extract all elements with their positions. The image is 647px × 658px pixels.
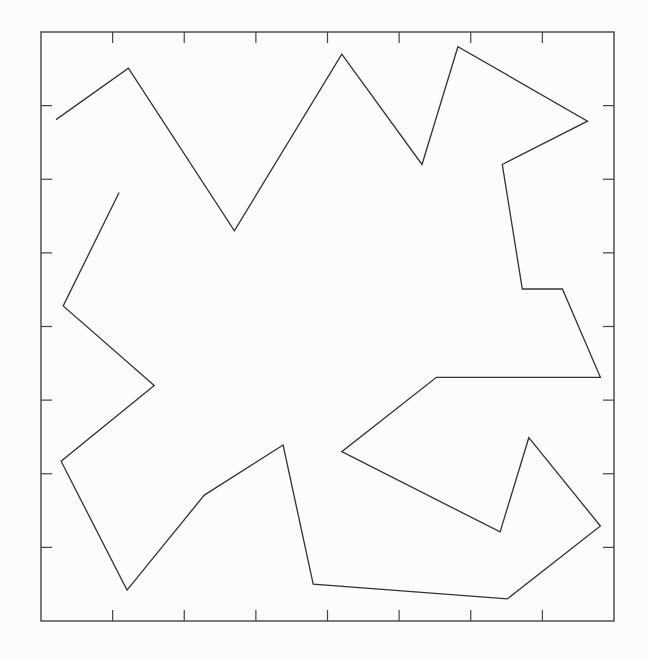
data-series-line [56, 47, 600, 599]
axis-ticks [41, 32, 614, 621]
plot-frame [41, 32, 614, 621]
line-chart [0, 0, 647, 658]
